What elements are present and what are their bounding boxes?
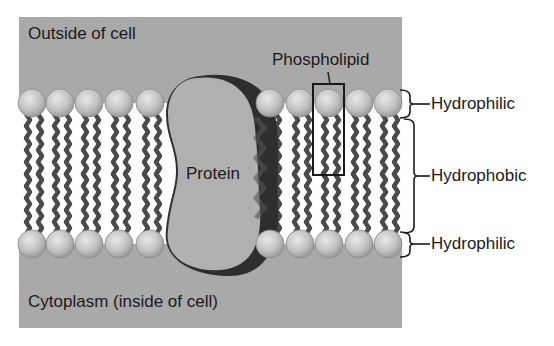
protein-label: Protein (186, 164, 240, 184)
bracket-middle-hydrophobic (404, 119, 430, 233)
hydrophilic-bottom-label: Hydrophilic (431, 234, 515, 254)
bracket-top-hydrophilic (400, 90, 430, 118)
cell-membrane-diagram: Outside of cell Cytoplasm (inside of cel… (0, 0, 554, 346)
bracket-bottom-hydrophilic (400, 232, 430, 257)
phospholipid-label: Phospholipid (272, 50, 369, 70)
hydrophilic-top-label: Hydrophilic (431, 94, 515, 114)
outside-of-cell-label: Outside of cell (28, 24, 136, 44)
hydrophobic-label: Hydrophobic (431, 166, 526, 186)
cytoplasm-label: Cytoplasm (inside of cell) (28, 292, 218, 312)
